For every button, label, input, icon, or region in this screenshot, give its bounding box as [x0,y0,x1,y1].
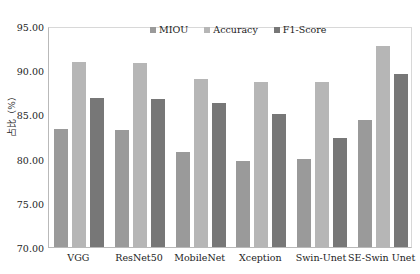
x-axis-tick-label: SE-Swin Unet [348,252,415,263]
bar [254,82,268,247]
y-axis-tick-label: 80.00 [17,154,44,165]
bars-layer [49,28,411,247]
plot-area [48,27,412,248]
bar [236,161,250,247]
bar [133,63,147,247]
bar-group [110,28,171,247]
legend-swatch-icon [274,27,280,33]
bar [90,98,104,247]
x-axis-tick-label: ResNet50 [115,252,163,263]
bar-group [170,28,231,247]
y-axis-tick-label: 85.00 [17,110,44,121]
bar [72,62,86,247]
y-axis-ticks: 95.0090.0085.0080.0075.0070.00 [0,0,48,274]
bar [272,114,286,247]
x-axis-tick-label: Xception [239,252,281,263]
x-axis-tick-label: Swin-Unet [296,252,347,263]
bar [297,159,311,247]
bar [358,120,372,247]
bar-group [292,28,353,247]
legend-label: Accuracy [213,24,258,35]
legend-item: F1-Score [274,24,327,35]
x-axis-tick-label: MobileNet [174,252,225,263]
y-axis-tick-label: 95.00 [17,22,44,33]
bar [212,103,226,247]
x-axis-tick-label: VGG [67,252,89,263]
bar [176,152,190,247]
chart-legend: MIOUAccuracyF1-Score [150,24,326,35]
bar-group [231,28,292,247]
bar [151,99,165,248]
x-axis-ticks: VGGResNet50MobileNetXceptionSwin-UnetSE-… [48,252,412,270]
bar [115,130,129,247]
legend-label: MIOU [159,24,188,35]
legend-swatch-icon [150,27,156,33]
legend-label: F1-Score [283,24,327,35]
legend-item: Accuracy [204,24,258,35]
bar [333,138,347,247]
bar [194,79,208,247]
y-axis-tick-label: 70.00 [17,243,44,254]
bar-group [352,28,413,247]
bar [315,82,329,247]
bar-chart: 占比（%） 95.0090.0085.0080.0075.0070.00 MIO… [0,0,420,274]
y-axis-tick-label: 90.00 [17,66,44,77]
legend-item: MIOU [150,24,188,35]
bar-group [49,28,110,247]
y-axis-tick-label: 75.00 [17,198,44,209]
bar [376,46,390,247]
bar [54,129,68,247]
bar [394,74,408,247]
legend-swatch-icon [204,27,210,33]
